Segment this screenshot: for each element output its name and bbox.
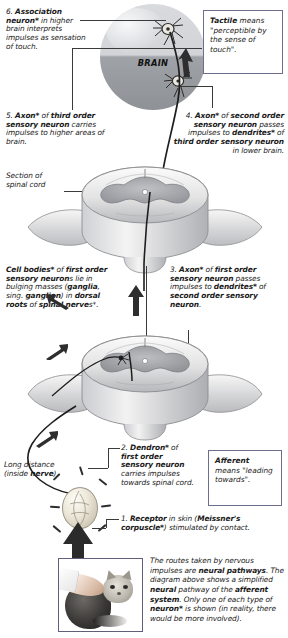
afferent-definition-box: Afferent means "leading towards". — [208, 450, 282, 506]
step-4-text: 4. Axon* of second order sensory neuron … — [168, 112, 284, 156]
stimulus-ray — [101, 504, 111, 507]
figure-caption: The routes taken by nervous impulses are… — [150, 556, 284, 623]
long-distance-line1: Long distance — [4, 460, 54, 469]
step-3-text: 3. Axon* of first order sensory neuron p… — [170, 266, 284, 310]
mid-impulse-arrow — [128, 285, 144, 317]
tactile-definition-box: Tactile means "perceptible by the sense … — [203, 10, 283, 74]
afferent-term: Afferent — [215, 456, 249, 465]
cat-eye-left — [110, 585, 115, 589]
step-4-label: 4. Axon* of second order sensory neuron … — [174, 111, 284, 155]
leader-line-step2-c — [88, 468, 108, 469]
dendron-path — [14, 404, 94, 500]
stimulus-ray — [53, 525, 62, 533]
shirt-sleeve — [58, 567, 80, 592]
leader-line-step1-b — [106, 519, 107, 528]
leader-line-step4-a — [212, 86, 213, 108]
stimulus-ray — [99, 478, 108, 485]
step-2-label: 2. Dendron* of first order sensory neuro… — [121, 443, 194, 487]
leader-line-step5-b — [72, 48, 73, 110]
step-5-text: 5. Axon* of third order sensory neuron c… — [6, 112, 110, 147]
step-1-text: 1. Receptor in skin (Meissner's corpuscl… — [121, 515, 284, 532]
neural-pathway-figure: BRAIN 6. Association neuron* in higher b… — [0, 0, 288, 638]
afferent-text: means "leading towards". — [215, 466, 273, 485]
leader-line-step5-a — [72, 48, 202, 49]
figure-caption-text: The routes taken by nervous impulses are… — [150, 556, 284, 623]
step-6-label: 6. Association neuron* in higher brain i… — [6, 7, 86, 51]
ascending-axon-segment — [118, 352, 142, 382]
leader-line-step4-b — [180, 86, 213, 87]
step-1-label: 1. Receptor in skin (Meissner's corpuscl… — [121, 514, 250, 532]
leader-line-step6 — [80, 20, 166, 21]
long-distance-line2: (inside nerve) — [4, 469, 56, 478]
afferent-direction-arrow — [44, 340, 68, 360]
stimulus-ray — [50, 506, 60, 508]
leader-line-step2-a — [108, 448, 120, 449]
long-distance-arrow — [34, 428, 58, 448]
leader-line-step1-c — [92, 528, 106, 529]
step-3-label: 3. Axon* of first order sensory neuron p… — [170, 265, 266, 309]
impulse-direction-arrow — [178, 48, 194, 78]
step-6-text: 6. Association neuron* in higher brain i… — [6, 8, 90, 52]
leader-line-step1-a — [106, 519, 119, 520]
cat-paw — [93, 615, 127, 627]
axon-connector-line — [146, 266, 147, 344]
tactile-term: Tactile — [210, 16, 237, 25]
cat-photo — [58, 558, 143, 632]
cat-eye-right — [123, 585, 128, 589]
step-5-label: 5. Axon* of third order sensory neuron c… — [6, 111, 104, 146]
cat-nose — [117, 592, 121, 595]
ganglion-direction-arrow — [46, 290, 70, 310]
step-2-text: 2. Dendron* of first order sensory neuro… — [121, 444, 195, 488]
long-distance-label: Long distance (inside nerve) — [4, 461, 76, 478]
leader-line-step2-b — [108, 448, 109, 468]
